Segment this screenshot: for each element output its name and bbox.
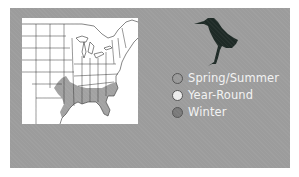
legend-item-winter: Winter: [172, 104, 279, 121]
legend-swatch-winter: [172, 107, 183, 118]
legend-label: Year-Round: [188, 90, 253, 102]
legend: Spring/Summer Year-Round Winter: [172, 70, 279, 121]
range-area: [54, 76, 118, 118]
legend-swatch-year-round: [172, 90, 183, 101]
range-map-panel: Spring/Summer Year-Round Winter: [10, 8, 290, 168]
range-map: [22, 18, 138, 124]
us-states-map: [22, 18, 138, 124]
legend-item-spring-summer: Spring/Summer: [172, 70, 279, 87]
legend-label: Winter: [188, 107, 227, 119]
heron-silhouette-icon: [190, 10, 250, 70]
legend-label: Spring/Summer: [188, 73, 279, 85]
legend-swatch-spring-summer: [172, 73, 183, 84]
legend-item-year-round: Year-Round: [172, 87, 279, 104]
